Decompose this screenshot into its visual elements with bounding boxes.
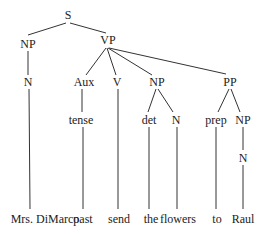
edge-pp-prep: [218, 89, 229, 112]
leaf-word-w5: flowers: [160, 213, 196, 225]
edge-s-vp: [70, 23, 106, 33]
edge-vp-aux: [86, 48, 106, 75]
leaf-word-w6: to: [212, 213, 221, 225]
syntax-tree-diagram: SNPVPNAuxVNPPPtensedetNprepNPNMrs. DiMar…: [0, 0, 268, 236]
edge-vp-pp: [109, 48, 226, 74]
tree-edges: [0, 0, 268, 236]
leaf-word-w4: the: [144, 213, 159, 225]
edge-pp-np3: [231, 89, 240, 112]
tree-node-v: V: [113, 76, 122, 88]
leaf-word-w3: send: [108, 213, 130, 225]
leaf-word-w1: Mrs. DiMarco: [11, 213, 80, 225]
tree-node-np3: NP: [235, 114, 250, 126]
tree-node-n3: N: [239, 152, 248, 164]
leaf-word-w7: Raul: [232, 213, 255, 225]
tree-node-vp: VP: [100, 34, 115, 46]
tree-node-pp: PP: [223, 76, 236, 88]
edge-np2-det: [148, 89, 156, 112]
tree-node-tense: tense: [69, 114, 94, 126]
tree-node-n2: N: [172, 114, 181, 126]
edge-s-np1: [28, 23, 66, 35]
edge-np2-n2: [158, 89, 173, 112]
tree-node-s: S: [65, 9, 72, 21]
edge-n1-w1: [29, 89, 30, 209]
tree-node-aux: Aux: [74, 76, 95, 88]
tree-node-det: det: [142, 114, 157, 126]
leaf-word-w2: past: [73, 213, 92, 225]
tree-node-prep: prep: [205, 114, 226, 126]
tree-node-n1: N: [24, 76, 33, 88]
tree-node-np1: NP: [20, 38, 35, 50]
tree-node-np2: NP: [149, 76, 164, 88]
